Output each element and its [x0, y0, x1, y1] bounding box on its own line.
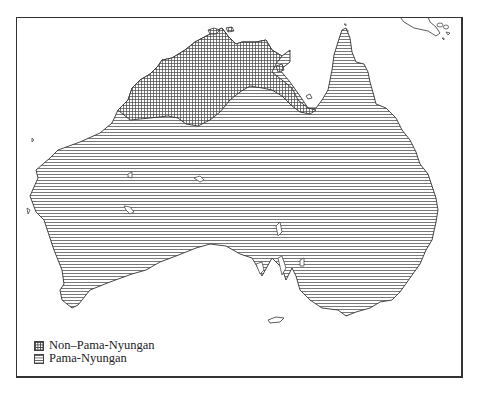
island-kangaroo: [268, 317, 284, 323]
crosshatch-swatch-icon: [34, 341, 44, 351]
australia-map: [0, 0, 477, 393]
new-guinea-coast: [400, 17, 440, 36]
horizontal-lines-swatch-icon: [34, 354, 44, 364]
island-mornington: [306, 94, 312, 99]
legend-label: Pama-Nyungan: [49, 352, 127, 365]
island-new-guinea-3: [446, 32, 450, 35]
island-new-guinea-2: [444, 25, 449, 29]
legend-item-pama-nyungan: Pama-Nyungan: [34, 352, 155, 365]
island-new-guinea-1: [437, 23, 443, 27]
island-groote-eylandt: [276, 64, 284, 72]
island-new-guinea-4: [442, 38, 444, 40]
map-legend: Non–Pama-Nyungan Pama-Nyungan: [34, 339, 155, 365]
